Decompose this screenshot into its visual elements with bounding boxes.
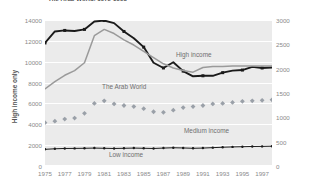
x-tick: 1997: [255, 170, 269, 177]
x-tick: 1979: [78, 170, 92, 177]
x-tick: 1983: [117, 170, 131, 177]
y-tick-right: 0: [276, 163, 279, 170]
series-label-low-income: Low income: [109, 151, 143, 158]
y-tick-left: 14000: [25, 17, 42, 24]
series-low-income: [45, 145, 272, 151]
series-label-medium-income: Medium income: [184, 127, 229, 134]
y-tick-left: 2000: [28, 142, 42, 149]
y-tick-left: 10000: [25, 58, 42, 65]
series-label-arab-world: The Arab World: [102, 83, 146, 90]
y-axis-title: High income only: [11, 62, 18, 132]
y-tick-left: 0: [39, 163, 42, 170]
y-tick-right: 1000: [276, 114, 290, 121]
plot-area: High income The Arab World Medium income…: [45, 20, 272, 166]
y-tick-right: 2000: [276, 65, 290, 72]
x-tick: 1993: [216, 170, 230, 177]
x-tick: 1991: [196, 170, 210, 177]
y-tick-right: 2500: [276, 41, 290, 48]
y-tick-right: 500: [276, 138, 286, 145]
series-high-income: [45, 20, 272, 77]
series-layer: [45, 20, 272, 166]
x-tick: 1981: [97, 170, 111, 177]
y-tick-right: 3000: [276, 17, 290, 24]
x-tick: 1989: [176, 170, 190, 177]
series-medium-income: [45, 97, 272, 125]
x-tick: 1977: [58, 170, 72, 177]
y-tick-left: 6000: [28, 100, 42, 107]
y-tick-right: 1500: [276, 90, 290, 97]
chart-title: The Arab World, 1975-1998: [48, 0, 127, 1]
x-tick: 1975: [38, 170, 52, 177]
y-tick-left: 4000: [28, 121, 42, 128]
series-the-arab-world: [45, 29, 272, 88]
x-tick: 1987: [157, 170, 171, 177]
x-tick: 1995: [236, 170, 250, 177]
chart-root: The Arab World, 1975-1998 High income Th…: [0, 0, 315, 188]
y-tick-left: 8000: [28, 79, 42, 86]
y-tick-left: 12000: [25, 37, 42, 44]
series-label-high-income: High income: [176, 51, 212, 58]
x-tick: 1985: [137, 170, 151, 177]
